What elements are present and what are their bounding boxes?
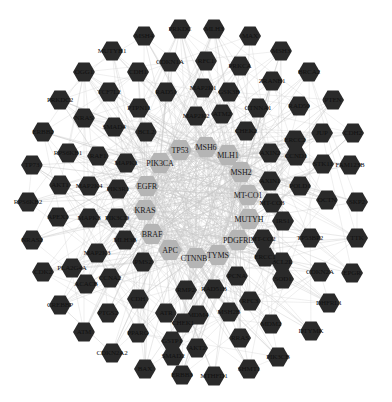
node-label: TP53: [172, 146, 189, 155]
node-label: TTK: [350, 234, 363, 242]
node-label: MT-CO2: [251, 235, 276, 243]
outer-node-pten: PTEN: [324, 96, 341, 104]
node-label: PIK3R1: [107, 185, 129, 193]
core-node-pik3ca: PIK3CA: [146, 159, 173, 168]
core-node-mt-co1: MT-CO1: [234, 191, 262, 200]
node-label: CDH1: [129, 68, 147, 76]
outer-node-msh2b: MSH2B: [218, 308, 241, 316]
node-label: CDKN1A: [156, 58, 184, 66]
network-diagram: PRKDCMLH3MSH4MAXMUTYH1CDKN1ARFC1MSH3OGG1…: [0, 0, 392, 402]
node-label: TYMS: [207, 251, 229, 260]
outer-node-rps6kb2: RPS6KB2: [14, 198, 42, 206]
node-label: TP53BP2: [297, 234, 324, 242]
node-label: SMAD2: [161, 352, 184, 360]
node-label: CHEK1: [172, 319, 194, 327]
node-label: MAPK1: [114, 159, 137, 167]
node-label: CDH2: [344, 129, 362, 137]
node-label: RPS6KB2: [14, 198, 42, 206]
node-label: AXIN2: [260, 149, 281, 157]
node-label: ERCC1: [254, 253, 275, 261]
outer-node-nras: NRAS: [75, 114, 93, 122]
node-label: RAD50: [288, 102, 309, 110]
outer-node-mdm2: MDM2: [261, 320, 282, 328]
outer-node-dtymk: DTYMK: [298, 327, 323, 335]
outer-node-ccnd1: CCND1: [285, 152, 307, 160]
outer-node-cdh1: CDH1: [129, 68, 147, 76]
node-label: SKP2: [349, 198, 365, 206]
node-label: MUTYH1: [98, 47, 127, 55]
node-label: MAP2K1: [190, 84, 217, 92]
outer-node-smad4: SMAD4: [102, 123, 125, 131]
node-label: NRAS2: [21, 236, 43, 244]
node-label: BAX: [138, 365, 152, 373]
outer-node-prkca: PRKCA: [229, 62, 252, 70]
node-label: DTYMK: [298, 327, 323, 335]
outer-node-ccna2: CCNA2: [99, 274, 121, 282]
node-label: RPS6KB1: [54, 149, 82, 157]
node-label: ATM2: [213, 110, 231, 118]
core-node-apc: APC: [162, 246, 177, 255]
node-label: PMS2: [134, 258, 151, 266]
outer-node-atr: ATR: [160, 309, 173, 317]
node-label: MAX: [242, 32, 258, 40]
outer-node-prkdc2: PRKDC2: [47, 96, 73, 104]
outer-node-octn: OCTN: [318, 196, 337, 204]
node-label: RFC1: [198, 57, 214, 65]
outer-node-ercc1: ERCC1: [254, 253, 275, 261]
outer-node-axin1: AXIN1: [260, 177, 281, 185]
outer-node-atm: ATM: [77, 328, 91, 336]
outer-node-map2k2: MAP2K2: [183, 112, 210, 120]
outer-node-mlh3: MLH3: [205, 25, 224, 33]
outer-node-rps6kb1: RPS6KB1: [54, 149, 82, 157]
outer-node-ercc2: ERCC2: [284, 136, 305, 144]
outer-node-tp53bp2: TP53BP2: [297, 234, 324, 242]
node-label: POLD1: [289, 182, 310, 190]
outer-node-stk11: STK11: [313, 160, 332, 168]
outer-node-rras: RRAS: [231, 334, 249, 342]
node-label: ATM: [77, 328, 91, 336]
node-label: OGG1: [75, 68, 93, 76]
node-label: KRAS: [135, 206, 156, 215]
node-label: ATR: [160, 309, 173, 317]
node-label: MSH6: [196, 143, 217, 152]
node-label: AKT2: [188, 344, 206, 352]
outer-node-pik3cd: PIK3CD: [105, 214, 129, 222]
node-label: CTNNA1: [244, 104, 271, 112]
core-node-mlh1: MLH1: [217, 151, 238, 160]
outer-node-map2k1: MAP2K1: [190, 84, 217, 92]
outer-node-ogg1: OGG1: [75, 68, 93, 76]
node-label: PTGS2: [98, 309, 118, 317]
outer-node-mthfd1: MTHFD1: [200, 372, 227, 380]
node-label: GSK3B: [218, 88, 240, 96]
node-label: PLA2G4A: [57, 264, 87, 272]
outer-node-pcna: PCNA: [228, 272, 246, 280]
node-label: PRKDC: [169, 25, 192, 33]
outer-node-gstp1: GSTP1: [162, 337, 182, 345]
outer-node-cdh2: CDH2: [344, 129, 362, 137]
outer-node-akt2: AKT2: [188, 344, 206, 352]
node-label: IRS1: [276, 217, 290, 225]
outer-node-cdkn1a: CDKN1A: [156, 58, 184, 66]
outer-node-mutyh1: MUTYH1: [98, 47, 127, 55]
node-label: ERBB2: [32, 128, 53, 136]
node-label: PTEN: [324, 96, 341, 104]
core-node-pdgfrl: PDGFRL: [223, 236, 253, 245]
node-label: APC: [162, 246, 177, 255]
outer-node-erbb2: ERBB2: [32, 128, 53, 136]
node-label: SMAD4: [102, 123, 125, 131]
outer-node-mlh3b: MLH3B: [113, 236, 136, 244]
node-label: MT-CO3: [260, 199, 285, 207]
outer-node-rfc1: RFC1: [198, 57, 214, 65]
outer-node-map2k3: MAP2K3: [84, 249, 111, 257]
core-node-tyms: TYMS: [207, 251, 229, 260]
outer-node-erbb3: ERBB3: [171, 371, 192, 379]
outer-node-skp2: SKP2: [349, 198, 365, 206]
node-label: MLH3B: [113, 236, 136, 244]
outer-node-ctnna1: CTNNA1: [244, 104, 271, 112]
node-label: CDK2: [34, 268, 52, 276]
node-label: CDKN2A: [306, 268, 334, 276]
node-label: MT-CO1: [234, 191, 262, 200]
node-label: RMP2: [177, 286, 195, 294]
outer-node-jup: JUP: [316, 129, 327, 137]
outer-node-pla2g4a: PLA2G4A: [57, 264, 87, 272]
